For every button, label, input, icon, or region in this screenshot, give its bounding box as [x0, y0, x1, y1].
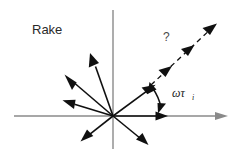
unknown-direction-arrow [151, 24, 217, 86]
vector-multipath-6-arrowhead-icon [136, 133, 149, 145]
unknown-direction-dashed-shaft [151, 27, 213, 85]
omega-tau-subscript-label: i [192, 93, 194, 102]
rake-vector-figure: Rake ? ωτ i [0, 0, 233, 157]
multipath-vectors-group [63, 53, 169, 145]
vector-reference-axis [113, 112, 168, 121]
vector-multipath-5-arrowhead-icon [81, 130, 94, 142]
omega-tau-arc-arrowhead-lower-icon [158, 103, 167, 114]
vector-multipath-4-arrowhead-icon [63, 100, 76, 109]
vector-multipath-5 [81, 116, 114, 142]
vector-multipath-5-shaft [89, 116, 113, 135]
vector-multipath-6-shaft [113, 116, 141, 139]
unknown-question-label: ? [163, 30, 170, 44]
vector-multipath-4 [63, 100, 114, 116]
omega-tau-label-group: ωτ i [172, 86, 194, 102]
vector-diagram-canvas: Rake ? ωτ i [0, 0, 233, 157]
vector-multipath-6 [113, 116, 149, 145]
vector-multipath-1-shaft [113, 89, 150, 116]
unknown-direction-arrowhead-mid2-icon [181, 45, 195, 56]
vector-reference-axis-arrowhead-icon [156, 112, 169, 121]
omega-tau-label: ωτ [172, 86, 185, 100]
x-axis-arrowhead-icon [215, 112, 228, 120]
omega-tau-angle-arc [148, 82, 167, 114]
vector-multipath-2-arrowhead-icon [89, 53, 99, 68]
unknown-direction-arrowhead-tip-icon [203, 24, 218, 36]
vector-multipath-3-arrowhead-icon [65, 75, 77, 91]
figure-title-label: Rake [32, 22, 62, 37]
